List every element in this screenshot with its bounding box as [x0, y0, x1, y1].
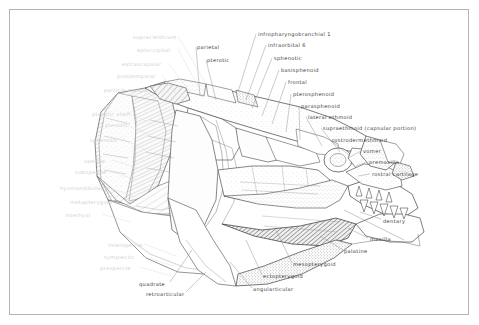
label-sphenotic-lower: sphenotic	[90, 138, 118, 143]
label-infraorbital-6: infraorbital 6	[268, 43, 306, 48]
label-particle-margin: particle margin	[104, 88, 148, 93]
label-vomer: vomer	[363, 149, 381, 154]
label-pterotic-shelf: pterotic shelf	[92, 112, 130, 117]
skull-drawing-svg	[0, 0, 479, 325]
label-basisphenoid: basisphenoid	[281, 68, 319, 73]
label-subopercle: subopercle	[75, 170, 106, 175]
label-quadrate: quadrate	[139, 282, 165, 287]
label-dentary: dentary	[383, 219, 405, 224]
label-symplectic: symplectic	[104, 255, 135, 260]
label-hyomandibular: hyomandibular	[60, 186, 103, 191]
label-parasphenoid: parasphenoid	[301, 104, 340, 109]
label-pterotic: pterotic	[207, 58, 229, 63]
label-opercle: opercle	[84, 159, 105, 164]
label-preopercle: preopercle	[100, 266, 131, 271]
label-epioccipital: epioccipital	[137, 48, 170, 53]
label-palatine: palatine	[344, 249, 367, 254]
fish-skull-illustration	[0, 0, 479, 325]
label-retroarticular: retroarticular	[146, 292, 184, 297]
label-rostral-cartilage: rostral cartilage	[372, 172, 418, 177]
label-infrapharyngobranchial-1: infropharyngobranchial 1	[258, 32, 331, 37]
label-mesopterygoid: mesopterygoid	[293, 262, 336, 267]
label-interopercle: interopercle	[108, 243, 143, 248]
label-frontal: frontal	[288, 80, 307, 85]
label-supracleithrum: supracleithrum	[133, 35, 177, 40]
label-rostrodermethmoid: rostrodermethmoid	[332, 138, 387, 143]
label-maxilla: maxilla	[370, 237, 391, 242]
label-premaxilla: premaxilla	[369, 160, 399, 165]
label-supraethmoid-capsular-portion: supraethmoid (capsular portion)	[323, 126, 416, 131]
label-ectopterygoid: ectopterygoid	[263, 274, 303, 279]
label-posttemporal: posttemporal	[117, 74, 155, 79]
pterygoid-series	[218, 166, 356, 286]
label-lateral-ethmoid: lateral ethmoid	[308, 115, 352, 120]
label-sphenotic: sphenotic	[274, 56, 302, 61]
label-extrascapular: extrascapular	[122, 62, 162, 67]
label-pterotic: pterotic	[105, 123, 127, 128]
label-interhyal: interhyal	[65, 213, 91, 218]
label-parietal: parietal	[197, 45, 219, 50]
label-pterosphenoid: pterosphenoid	[293, 92, 334, 97]
label-angularticular: angularticular	[253, 287, 293, 292]
label-metapterygoid: metapterygoid	[70, 200, 112, 205]
